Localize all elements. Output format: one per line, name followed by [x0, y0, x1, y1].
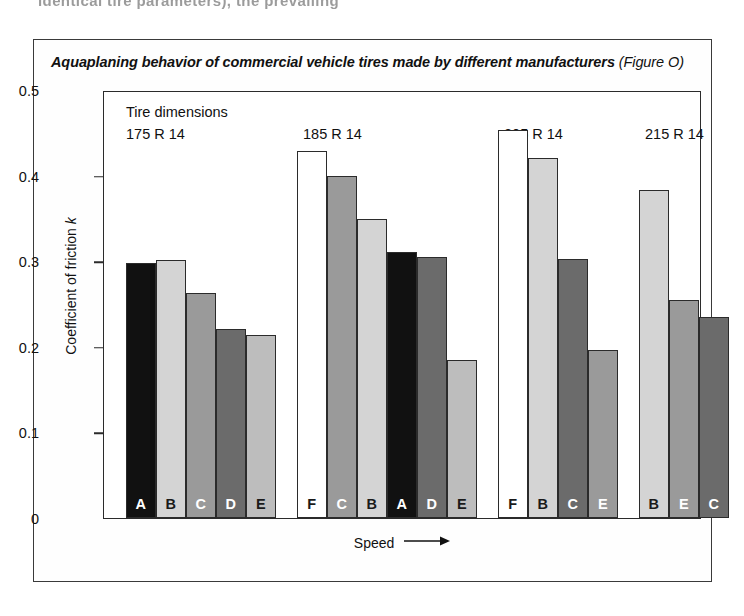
bar: A [387, 252, 417, 518]
bar: B [528, 158, 558, 518]
bar-letter-label: E [256, 497, 266, 518]
y-tick-label: 0.3 [0, 254, 39, 270]
bar-letter-label: E [457, 497, 467, 518]
tire-dimensions-caption: Tire dimensions [126, 104, 228, 120]
bar: B [639, 190, 669, 518]
bar: E [669, 300, 699, 518]
clipped-body-text: identical tire parameters), the prevaili… [38, 0, 458, 9]
bar-letter-label: B [538, 497, 549, 518]
y-axis-symbol: k [63, 217, 79, 224]
y-tick-label: 0.5 [0, 83, 39, 99]
bar-letter-label: E [679, 497, 689, 518]
bar: D [417, 257, 447, 518]
bar: F [498, 130, 528, 518]
bar-letter-label: A [397, 497, 408, 518]
bar-letter-label: B [367, 497, 378, 518]
y-tick-label: 0.4 [0, 169, 39, 185]
x-axis-title: Speed [103, 535, 701, 551]
bar: C [699, 317, 729, 518]
bar: A [126, 263, 156, 518]
bar-letter-label: C [709, 497, 720, 518]
bar: D [216, 329, 246, 518]
bar-letter-label: C [337, 497, 348, 518]
x-axis-title-text: Speed [354, 535, 394, 551]
y-tick-label: 0.2 [0, 340, 39, 356]
bar: C [558, 259, 588, 518]
bar-letter-label: F [307, 497, 316, 518]
bar-letter-label: B [649, 497, 660, 518]
bar-letter-label: C [568, 497, 579, 518]
figure-frame: Aquaplaning behavior of commercial vehic… [33, 39, 712, 582]
bar: E [588, 350, 618, 518]
right-arrow-icon [404, 536, 450, 546]
bar: C [327, 176, 357, 518]
bar: B [357, 219, 387, 518]
bar: C [186, 293, 216, 518]
plot-area: Tire dimensions 175 R 14185 R 14205 R 14… [103, 91, 701, 519]
bar-letter-label: D [226, 497, 237, 518]
chart-plot: Coefficient of friction k 00.10.20.30.40… [34, 40, 713, 583]
bar: E [246, 335, 276, 518]
bar-letter-label: D [427, 497, 438, 518]
bar-letter-label: E [598, 497, 608, 518]
group-label: 175 R 14 [126, 126, 185, 142]
bar: E [447, 360, 477, 518]
bar-letter-label: A [136, 497, 147, 518]
bar-letter-label: B [166, 497, 177, 518]
y-tick-label: 0 [0, 511, 39, 527]
group-label: 215 R 14 [645, 126, 704, 142]
group-label: 185 R 14 [303, 126, 362, 142]
y-axis-title: Coefficient of friction k [63, 176, 79, 396]
y-axis-title-text: Coefficient of friction [63, 224, 79, 354]
bar: F [297, 151, 327, 518]
bar-letter-label: F [508, 497, 517, 518]
y-tick-label: 0.1 [0, 425, 39, 441]
bar-letter-label: C [196, 497, 207, 518]
bar: B [156, 260, 186, 518]
